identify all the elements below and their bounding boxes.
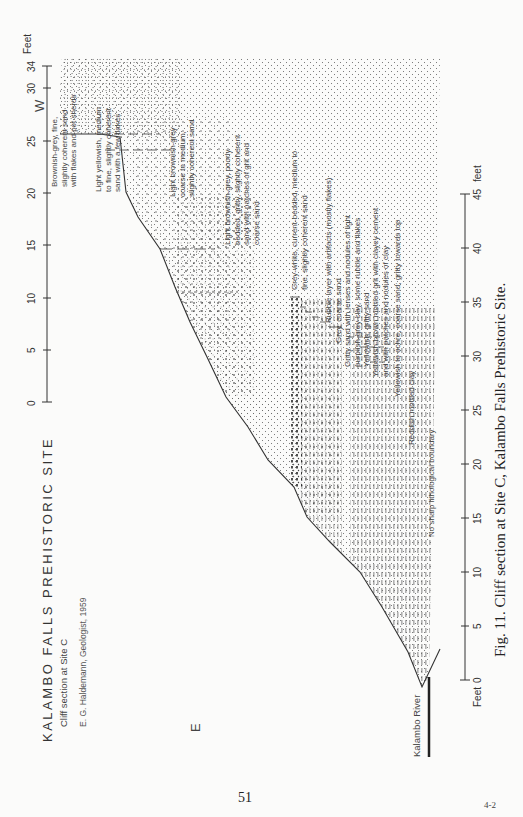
layer-label-reddish-clay: Reddish mottled clay xyxy=(407,371,417,445)
figure-author: E. G. Haldemann, Geologist, 1959 xyxy=(78,598,88,727)
v-tick-0: 0 xyxy=(26,400,37,406)
v-tick-20: 20 xyxy=(26,188,37,199)
h-tick-5: 5 xyxy=(472,623,483,629)
direction-east: E xyxy=(188,723,203,732)
layer-label-brown-gritty: Light brownish-grey, poorly bedded, grit… xyxy=(223,135,261,245)
h-tick-10: 10 xyxy=(472,567,483,578)
h-tick-20: 20 xyxy=(472,459,483,470)
layer-label-top: Brownish-grey, fine, slightly coherent s… xyxy=(50,95,79,188)
h-tick-35: 35 xyxy=(472,297,483,308)
layer-label-yellow: Light yellowish, medium to fine, slightl… xyxy=(94,107,123,192)
v-tick-15: 15 xyxy=(26,240,37,251)
h-tick-25: 25 xyxy=(472,405,483,416)
figure-subtitle: Cliff section at Site C xyxy=(58,639,69,727)
layer-label-brown-coarse: Light brownish-grey coarse to medium, sl… xyxy=(168,120,197,197)
vertical-axis-unit: Feet xyxy=(22,34,33,54)
h-axis-origin-label: Feet xyxy=(472,687,483,707)
v-tick-5: 5 xyxy=(26,347,37,353)
figure-title: KALAMBO FALLS PREHISTORIC SITE xyxy=(40,437,55,742)
layer-label-boundary-note: No sharp lithological boundary xyxy=(427,429,437,537)
h-tick-0: 0 xyxy=(472,677,483,683)
cliff-section-diagram: KALAMBO FALLS PREHISTORIC SITE Cliff sec… xyxy=(0,0,523,817)
h-tick-30: 30 xyxy=(472,351,483,362)
layer-label-grey-white: Grey-white, current-bedded, medium to fi… xyxy=(290,151,309,290)
layer-label-gritty-lenses: Gritty sand with lenses and nodules of l… xyxy=(343,215,362,367)
v-tick-30: 30 xyxy=(26,83,37,94)
v-tick-10: 10 xyxy=(26,293,37,304)
h-tick-40: 40 xyxy=(472,243,483,254)
figure-caption: Fig. 11. Cliff section at Site C, Kalamb… xyxy=(492,283,509,657)
v-tick-25: 25 xyxy=(26,136,37,147)
river-label: Kalambo River xyxy=(411,695,422,757)
v-tick-34: 34 xyxy=(26,61,37,72)
layer-label-yellowish-brown: Yellowish-brown mottled grit with clayey… xyxy=(371,208,390,377)
figure-page: 51 4-2 xyxy=(0,0,523,817)
h-tick-15: 15 xyxy=(472,513,483,524)
layer-label-rubble: Rubble layer with artifacts (mostly flak… xyxy=(324,178,334,323)
h-tick-45: 45 xyxy=(472,189,483,200)
layer-label-ochre: Yellowish to ochre, coarse sand; gritty … xyxy=(393,219,403,397)
direction-west: W xyxy=(32,100,47,112)
horizontal-scale xyxy=(460,194,470,680)
h-axis-unit: feet xyxy=(472,165,483,182)
